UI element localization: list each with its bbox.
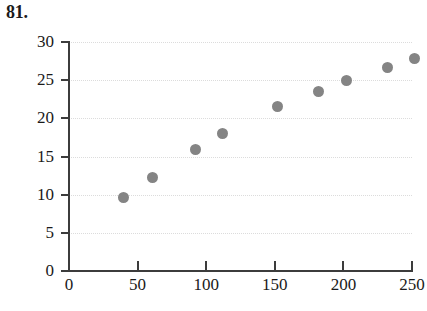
- gridline: [69, 233, 412, 234]
- y-axis-tick: [61, 79, 70, 81]
- data-point: [409, 53, 420, 64]
- y-axis-tick: [61, 117, 70, 119]
- x-axis-tick: [68, 261, 70, 271]
- gridline: [69, 42, 412, 43]
- x-axis-tick: [342, 261, 344, 271]
- x-axis-tick-label: 50: [113, 276, 163, 293]
- y-axis-tick: [61, 232, 70, 234]
- data-point: [341, 75, 352, 86]
- y-axis-tick-label: 10: [8, 186, 54, 203]
- problem-number-label: 81.: [6, 3, 28, 21]
- x-axis-tick-label: 150: [250, 276, 300, 293]
- x-axis-tick: [137, 261, 139, 271]
- x-axis-tick-label: 0: [44, 276, 94, 293]
- x-axis-tick-label: 200: [318, 276, 368, 293]
- gridline: [69, 157, 412, 158]
- y-axis-tick-label: 5: [8, 224, 54, 241]
- data-point: [190, 144, 201, 155]
- plot-area: [69, 42, 412, 271]
- x-axis-line: [68, 270, 413, 272]
- y-axis-tick: [61, 194, 70, 196]
- data-point: [382, 62, 393, 73]
- x-axis-tick-label: 250: [387, 276, 427, 293]
- scatter-plot-figure: 81. 051015202530050100150200250: [0, 0, 427, 311]
- gridline: [69, 80, 412, 81]
- y-axis-tick: [61, 156, 70, 158]
- x-axis-tick: [274, 261, 276, 271]
- x-axis-tick: [205, 261, 207, 271]
- y-axis-tick-label: 30: [8, 33, 54, 50]
- y-axis-tick: [61, 41, 70, 43]
- x-axis-tick: [411, 261, 413, 271]
- x-axis-tick-label: 100: [181, 276, 231, 293]
- y-axis-tick-label: 25: [8, 71, 54, 88]
- data-point: [147, 172, 158, 183]
- y-axis-tick-label: 15: [8, 148, 54, 165]
- y-axis-tick-label: 20: [8, 109, 54, 126]
- gridline: [69, 118, 412, 119]
